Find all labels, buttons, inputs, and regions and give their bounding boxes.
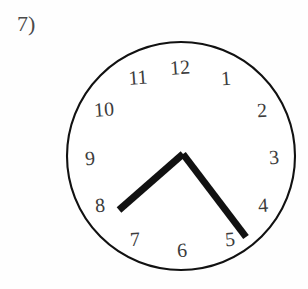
- clock-numeral-1: 1: [220, 68, 231, 89]
- clock-numeral-9: 9: [84, 148, 95, 169]
- clock-numeral-3: 3: [268, 147, 279, 168]
- clock-numeral-5: 5: [224, 229, 235, 250]
- clock-numeral-2: 2: [256, 100, 267, 121]
- clock-svg: [0, 0, 308, 289]
- clock-numeral-8: 8: [94, 195, 105, 216]
- clock-numeral-12: 12: [169, 56, 190, 77]
- clock-numeral-10: 10: [93, 98, 114, 119]
- clock-numeral-7: 7: [129, 229, 140, 250]
- clock-face: 12 1 2 3 4 5 6 7 8 9 10 11: [0, 0, 308, 289]
- clock-numeral-11: 11: [128, 66, 149, 87]
- clock-numeral-6: 6: [176, 240, 187, 261]
- clock-numeral-4: 4: [257, 195, 268, 216]
- worksheet-canvas: 7) 12 1 2 3 4 5 6 7 8 9 10 11: [0, 0, 308, 289]
